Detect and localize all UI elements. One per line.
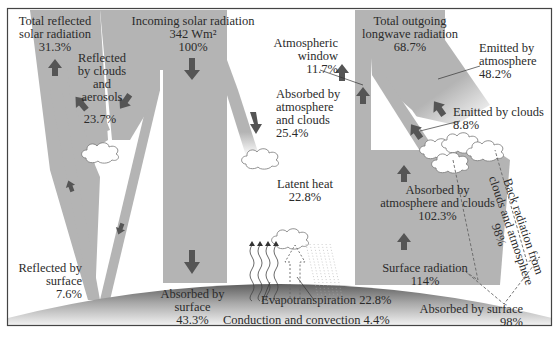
label-atmospheric-window: Atmospheric window 11.7% bbox=[268, 37, 338, 76]
label-absorbed-atmosphere: Absorbed by atmosphere and clouds 25.4% bbox=[276, 88, 346, 140]
label-total-outgoing: Total outgoing longwave radiation 68.7% bbox=[360, 15, 460, 54]
label-total-reflected: Total reflected solar radiation 31.3% bbox=[15, 15, 95, 54]
label-evapotranspiration: Evapotranspiration 22.8% bbox=[261, 294, 392, 307]
label-emitted-atmosphere: Emitted by atmosphere 48.2% bbox=[479, 42, 549, 81]
label-incoming: Incoming solar radiation 342 Wm² 100% bbox=[128, 15, 258, 54]
energy-budget-diagram: Total reflected solar radiation 31.3% Re… bbox=[0, 0, 559, 340]
label-surface-radiation: Surface radiation 114% bbox=[375, 262, 475, 288]
label-reflected-surface: Reflected by surface 7.6% bbox=[12, 262, 82, 301]
label-conduction-convection: Conduction and convection 4.4% bbox=[223, 314, 390, 327]
label-emitted-clouds: Emitted by clouds 8.8% bbox=[453, 106, 553, 132]
label-absorbed-surface: Absorbed by surface 43.3% bbox=[155, 288, 230, 327]
label-reflected-clouds-value: 23.7% bbox=[80, 113, 120, 126]
label-absorbed-surface-back: Absorbed by surface 98% bbox=[393, 303, 523, 329]
label-reflected-clouds: Reflected by clouds and aerosols bbox=[72, 52, 132, 104]
label-latent-heat: Latent heat 22.8% bbox=[275, 178, 335, 204]
